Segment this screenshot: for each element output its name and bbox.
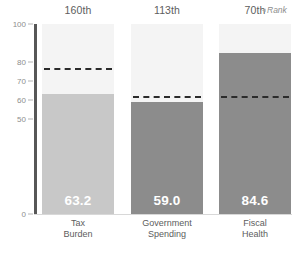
y-axis-tick-label-70: 70 bbox=[0, 77, 26, 86]
y-axis-tick-label-80: 80 bbox=[0, 58, 26, 67]
plot-area: 05060708010063.259.084.6 bbox=[0, 24, 294, 214]
rank-legend: ◂Rank bbox=[262, 5, 287, 15]
reference-line-0 bbox=[44, 68, 112, 70]
y-axis-tick-mark-60 bbox=[28, 100, 33, 101]
y-axis-tick-mark-80 bbox=[28, 62, 33, 63]
rank-header-row: 160th 113th 70th ◂Rank bbox=[0, 0, 294, 22]
economic-freedom-bar-chart: 160th 113th 70th ◂Rank 05060708010063.25… bbox=[0, 0, 294, 256]
y-axis-tick-mark-0 bbox=[28, 214, 33, 215]
rank-legend-text: Rank bbox=[267, 5, 287, 15]
bar-0[interactable]: 63.2 bbox=[42, 94, 114, 214]
y-axis-spine bbox=[34, 24, 37, 214]
bar-2[interactable]: 84.6 bbox=[219, 53, 291, 214]
bar-value-label-2: 84.6 bbox=[219, 193, 291, 208]
rank-label-government-spending: 113th bbox=[131, 4, 203, 16]
y-axis-tick-mark-70 bbox=[28, 81, 33, 82]
y-axis-tick-label-60: 60 bbox=[0, 96, 26, 105]
y-axis-tick-label-50: 50 bbox=[0, 115, 26, 124]
y-axis-tick-mark-50 bbox=[28, 119, 33, 120]
category-label-tax-burden: Tax Burden bbox=[34, 218, 122, 240]
bar-value-label-1: 59.0 bbox=[131, 193, 203, 208]
category-label-fiscal-health: Fiscal Health bbox=[211, 218, 294, 240]
reference-line-1 bbox=[133, 96, 201, 98]
reference-line-2 bbox=[221, 96, 289, 98]
y-axis-tick-label-100: 100 bbox=[0, 20, 26, 29]
category-label-row: Tax Burden Government Spending Fiscal He… bbox=[0, 218, 294, 252]
rank-legend-caret-icon: ◂ bbox=[262, 6, 266, 13]
bar-1[interactable]: 59.0 bbox=[131, 102, 203, 214]
category-label-government-spending: Government Spending bbox=[123, 218, 211, 240]
rank-label-tax-burden: 160th bbox=[42, 4, 114, 16]
bar-value-label-0: 63.2 bbox=[42, 193, 114, 208]
x-axis-baseline bbox=[34, 214, 292, 215]
y-axis-tick-mark-100 bbox=[28, 24, 33, 25]
